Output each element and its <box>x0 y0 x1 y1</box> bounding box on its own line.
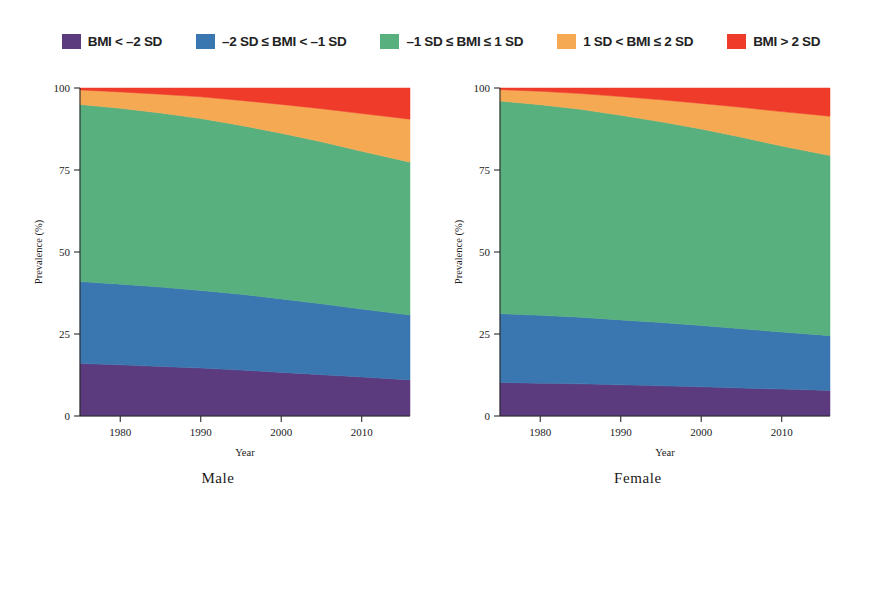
legend-item-label: BMI < –2 SD <box>88 34 162 49</box>
chart-panel-male: 02550751001980199020002010YearPrevalence… <box>18 78 418 478</box>
x-tick-label: 1980 <box>109 426 131 438</box>
y-tick-label: 100 <box>54 82 71 94</box>
chart-panel-female: 02550751001980199020002010YearPrevalence… <box>438 78 838 478</box>
legend-swatch-icon <box>380 34 399 49</box>
x-tick-label: 2000 <box>270 426 293 438</box>
legend-item-bmi-lt-minus2sd: BMI < –2 SD <box>62 34 162 49</box>
legend-item-minus1sd-to-1sd: –1 SD ≤ BMI ≤ 1 SD <box>380 34 523 49</box>
y-axis-title: Prevalence (%) <box>453 219 465 284</box>
x-tick-label: 2010 <box>351 426 374 438</box>
legend-item-label: BMI > 2 SD <box>753 34 820 49</box>
y-tick-label: 50 <box>59 246 71 258</box>
y-tick-label: 50 <box>479 246 491 258</box>
x-tick-label: 2010 <box>771 426 794 438</box>
stacked-area-chart-female: 02550751001980199020002010YearPrevalence… <box>438 78 838 478</box>
y-axis-title: Prevalence (%) <box>33 219 45 284</box>
chart-legend: BMI < –2 SD –2 SD ≤ BMI < –1 SD –1 SD ≤ … <box>0 24 882 58</box>
legend-item-label: –1 SD ≤ BMI ≤ 1 SD <box>406 34 523 49</box>
y-tick-label: 25 <box>59 328 71 340</box>
stacked-area-chart-male: 02550751001980199020002010YearPrevalence… <box>18 78 418 478</box>
legend-swatch-icon <box>62 34 81 49</box>
x-tick-label: 1980 <box>529 426 552 438</box>
legend-swatch-icon <box>727 34 746 49</box>
panel-caption-female: Female <box>438 470 838 487</box>
legend-item-minus2sd-to-minus1sd: –2 SD ≤ BMI < –1 SD <box>196 34 346 49</box>
y-tick-label: 0 <box>65 410 71 422</box>
legend-item-bmi-gt-2sd: BMI > 2 SD <box>727 34 820 49</box>
legend-item-label: 1 SD < BMI ≤ 2 SD <box>583 34 693 49</box>
y-tick-label: 0 <box>485 410 491 422</box>
panel-caption-male: Male <box>18 470 418 487</box>
x-tick-label: 1990 <box>610 426 633 438</box>
y-tick-label: 100 <box>474 82 491 94</box>
y-tick-label: 25 <box>479 328 491 340</box>
y-tick-label: 75 <box>479 164 491 176</box>
x-axis-title: Year <box>235 447 255 458</box>
legend-item-1sd-to-2sd: 1 SD < BMI ≤ 2 SD <box>557 34 693 49</box>
legend-item-label: –2 SD ≤ BMI < –1 SD <box>222 34 346 49</box>
y-tick-label: 75 <box>59 164 71 176</box>
x-tick-label: 1990 <box>190 426 213 438</box>
legend-swatch-icon <box>196 34 215 49</box>
legend-swatch-icon <box>557 34 576 49</box>
x-axis-title: Year <box>655 447 675 458</box>
x-tick-label: 2000 <box>690 426 713 438</box>
